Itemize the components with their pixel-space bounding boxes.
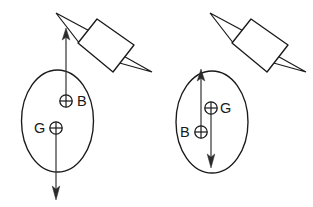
buoyancy-centre-marker-right: B (180, 124, 207, 140)
gravity-label-left: G (34, 120, 45, 136)
gravity-centre-marker-right: G (205, 100, 231, 116)
diagram-canvas: B G (0, 0, 313, 207)
buoyancy-gravity-diagram: B G (0, 0, 313, 207)
hull-ellipse-left (22, 70, 94, 172)
push-pin-left (56, 13, 152, 72)
buoyancy-centre-marker-left: B (60, 93, 87, 109)
buoyancy-label-right: B (180, 124, 190, 140)
gravity-label-right: G (220, 100, 231, 116)
panel-right: G B (176, 13, 306, 173)
push-pin-right (210, 13, 306, 72)
gravity-centre-marker-left: G (34, 120, 62, 136)
gravity-vector-right (207, 108, 215, 168)
buoyancy-vector-right (197, 69, 205, 132)
panel-left: B G (22, 13, 153, 200)
buoyancy-label-left: B (77, 93, 87, 109)
gravity-vector-left (52, 128, 60, 200)
buoyancy-vector-left (62, 28, 70, 101)
